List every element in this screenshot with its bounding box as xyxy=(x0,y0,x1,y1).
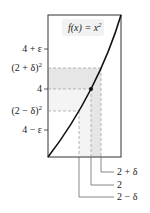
leader-2md xyxy=(79,157,114,197)
ytick-label-2md-sq: (2 − δ)2 xyxy=(11,104,42,117)
ytick-label-4me: 4 − ε xyxy=(22,124,42,135)
point-2-4 xyxy=(89,87,93,91)
xtick-label-2md: 2 − δ xyxy=(117,191,138,202)
function-label: f(x) = x2 xyxy=(68,21,102,34)
band-vertical-right xyxy=(91,68,101,157)
leader-2 xyxy=(91,157,114,185)
xtick-label-2pd: 2 + δ xyxy=(117,166,138,177)
leader-2pd xyxy=(101,157,114,172)
epsilon-delta-diagram: f(x) = x2 4 + ε (2 + δ)2 4 (2 − δ)2 4 − … xyxy=(0,0,150,213)
ytick-label-4: 4 xyxy=(37,83,42,94)
ytick-label-4pe: 4 + ε xyxy=(22,43,42,54)
xtick-label-2: 2 xyxy=(117,179,122,190)
ytick-label-2pd-sq: (2 + δ)2 xyxy=(11,61,42,74)
